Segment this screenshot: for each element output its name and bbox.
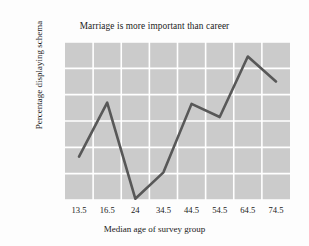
x-tick-label: 74.5 xyxy=(256,205,296,215)
x-axis-label: Median age of survey group xyxy=(0,224,309,234)
plot-svg xyxy=(65,42,290,200)
plot-area xyxy=(65,42,290,200)
chart-figure: Marriage is more important than career P… xyxy=(0,0,309,246)
y-axis-label: Percentage displaying schema xyxy=(34,0,48,155)
